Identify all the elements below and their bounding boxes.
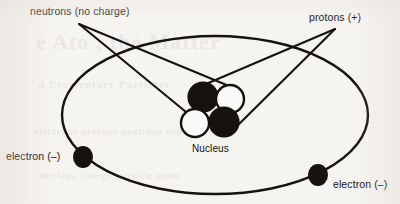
protons-label: protons (+): [309, 11, 361, 23]
neutron-particle-2: [181, 109, 209, 137]
neutron-leader-line-2: [79, 24, 186, 112]
electron-right-label: electron (–): [333, 178, 387, 190]
proton-particle-1: [189, 83, 218, 112]
electron-particle-right: [308, 164, 328, 186]
nucleus-label: Nucleus: [192, 143, 229, 154]
nucleus-group: [181, 83, 244, 138]
electron-left-label: electron (–): [6, 150, 60, 162]
atom-diagram: e Ato , the Matter d Erementary Particte…: [0, 0, 400, 204]
electron-particle-left: [73, 146, 93, 168]
atom-illustration: [0, 0, 400, 204]
neutrons-label: neutrons (no charge): [30, 5, 129, 17]
neutron-leader-line-1: [79, 24, 229, 86]
proton-particle-2: [210, 108, 239, 137]
